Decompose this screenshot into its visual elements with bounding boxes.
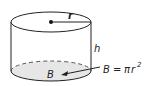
- formula-lhs: B: [103, 64, 110, 75]
- base-label: B: [47, 69, 54, 80]
- formula-pi: π: [124, 64, 131, 75]
- height-label: h: [94, 43, 100, 54]
- cylinder-diagram: r h B B = π r 2: [0, 0, 149, 86]
- formula-exponent: 2: [137, 61, 142, 69]
- formula-r: r: [131, 64, 136, 75]
- formula-equals: =: [113, 64, 121, 75]
